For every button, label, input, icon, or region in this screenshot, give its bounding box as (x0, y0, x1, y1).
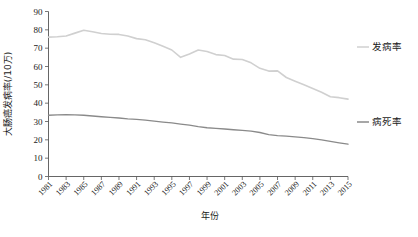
series-line-0 (49, 30, 349, 99)
y-tick-label: 20 (34, 135, 44, 145)
y-axis-ticks: 0102030405060708090 (34, 7, 49, 182)
y-tick-label: 30 (34, 117, 44, 127)
y-tick-label: 40 (34, 98, 44, 108)
x-tick-label: 2003 (230, 180, 248, 198)
series-line-1 (49, 115, 349, 145)
x-tick-label: 1983 (54, 180, 72, 198)
x-tick-label: 2013 (318, 180, 336, 198)
x-axis-ticks: 1981198319851987198919911993199519971999… (36, 177, 353, 198)
x-tick-label: 1989 (107, 180, 125, 198)
chart-legend: 发病率病死率 (357, 41, 402, 127)
x-tick-label: 2009 (283, 180, 301, 198)
y-axis: 0102030405060708090 (34, 7, 49, 182)
x-tick-label: 1997 (177, 180, 195, 198)
legend-label-1: 病死率 (372, 116, 402, 127)
y-tick-label: 10 (34, 153, 44, 163)
x-tick-label: 2015 (336, 180, 354, 198)
y-tick-label: 70 (34, 43, 44, 53)
y-tick-label: 0 (38, 172, 43, 182)
x-axis-title: 年份 (201, 210, 219, 221)
x-tick-label: 1981 (36, 180, 54, 198)
line-chart: 0102030405060708090 19811983198519871989… (0, 0, 418, 237)
x-tick-label: 2007 (266, 180, 284, 198)
y-tick-label: 80 (34, 25, 44, 35)
y-tick-label: 60 (34, 62, 44, 72)
chart-container: 0102030405060708090 19811983198519871989… (0, 0, 418, 237)
x-tick-label: 1999 (195, 180, 213, 198)
x-tick-label: 2005 (248, 180, 266, 198)
x-axis: 1981198319851987198919911993199519971999… (36, 177, 353, 198)
x-tick-label: 1995 (160, 180, 178, 198)
y-tick-label: 90 (34, 7, 44, 17)
y-tick-label: 50 (34, 80, 44, 90)
x-tick-label: 1993 (142, 180, 160, 198)
legend-label-0: 发病率 (372, 41, 402, 52)
x-tick-label: 1985 (72, 180, 90, 198)
y-axis-title: 大肠癌发病率(/10万) (2, 52, 13, 137)
x-tick-label: 1987 (89, 180, 107, 198)
x-tick-label: 2011 (301, 180, 319, 198)
x-tick-label: 1991 (125, 180, 143, 198)
data-series-group (49, 30, 349, 144)
x-tick-label: 2001 (213, 180, 231, 198)
